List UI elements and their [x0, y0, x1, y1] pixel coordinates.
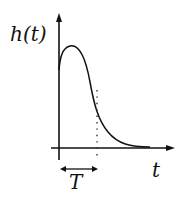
y-axis-arrow-icon	[56, 13, 62, 22]
y-axis-label: h(t)	[10, 24, 47, 44]
x-axis-label: t	[152, 160, 160, 180]
response-curve	[59, 46, 150, 147]
x-axis-arrow-icon	[166, 145, 175, 151]
x-axis	[51, 145, 175, 151]
y-axis	[56, 13, 62, 160]
interval-label: T	[69, 172, 82, 192]
impulse-response-diagram: h(t) t T	[0, 0, 184, 201]
